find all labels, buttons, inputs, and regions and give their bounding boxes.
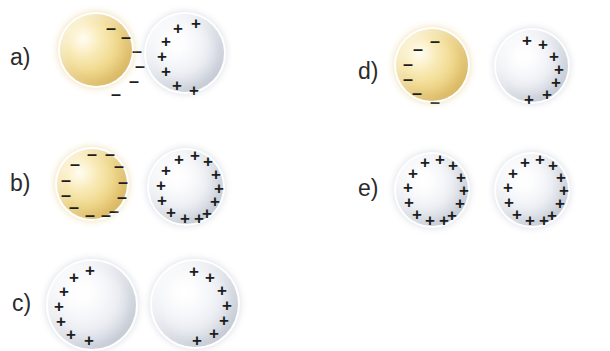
charge-positive-e-1-12: +: [539, 212, 549, 229]
charge-positive-e-1-1: +: [535, 151, 545, 168]
charge-positive-e-1-9: +: [512, 206, 522, 223]
option-e-gray-sphere-left[interactable]: +++++++++++++: [396, 154, 468, 226]
charge-positive-e-0-11: +: [425, 212, 435, 229]
charge-positive-e-0-12: +: [439, 212, 449, 229]
option-e-gray-sphere-right[interactable]: +++++++++++++: [496, 154, 568, 226]
charge-positive-e-0-1: +: [435, 151, 445, 168]
charge-positive-e-0-9: +: [412, 206, 422, 223]
charge-positive-e-1-11: +: [525, 212, 535, 229]
charge-positive-e-1-0: +: [520, 154, 530, 171]
option-label-e: e): [358, 177, 378, 200]
charge-positive-e-0-0: +: [420, 154, 430, 171]
